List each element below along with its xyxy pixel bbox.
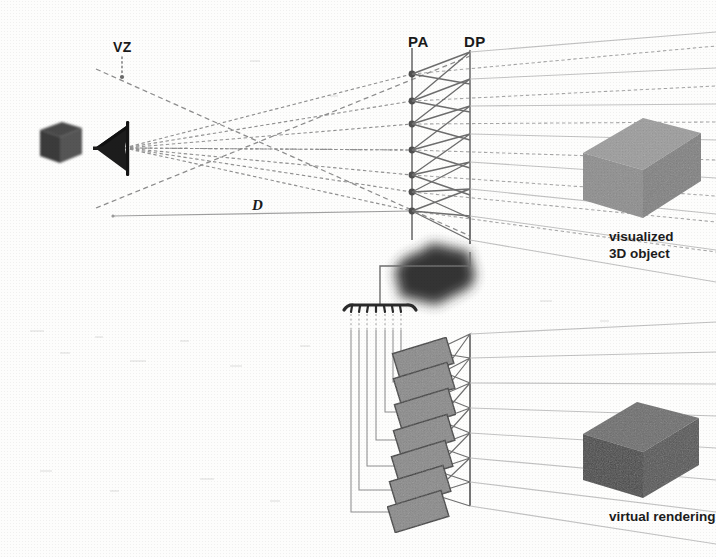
label-vz: VZ xyxy=(113,39,132,55)
visualized-3d-object-cuboid xyxy=(583,118,701,218)
label-visualized-line2: 3D object xyxy=(609,245,674,262)
label-distance-d: D xyxy=(252,197,263,214)
vz-pointer xyxy=(120,57,124,79)
viewer-axis-ray xyxy=(130,148,412,150)
pa-dp-beam-zigzag xyxy=(412,52,470,244)
comb-bracket-icon xyxy=(344,305,416,312)
diagram-canvas: PA DP VZ D visualized 3D object virtual … xyxy=(0,0,716,557)
image-slice-stack xyxy=(387,337,455,532)
label-visualized-line1: visualized xyxy=(609,228,674,245)
label-virtual-rendering: virtual rendering xyxy=(609,508,716,525)
comb-feed-dotted xyxy=(351,314,401,330)
diagram-artwork xyxy=(0,0,716,557)
label-pa: PA xyxy=(408,33,429,50)
virtual-rendering-cuboid xyxy=(583,402,699,498)
volumetric-blob-icon xyxy=(395,243,475,305)
label-visualized-3d-object: visualized 3D object xyxy=(609,228,674,262)
small-cuboid-icon xyxy=(40,122,82,163)
label-dp: DP xyxy=(464,33,486,50)
eye-viewpoint-icon xyxy=(93,121,129,176)
